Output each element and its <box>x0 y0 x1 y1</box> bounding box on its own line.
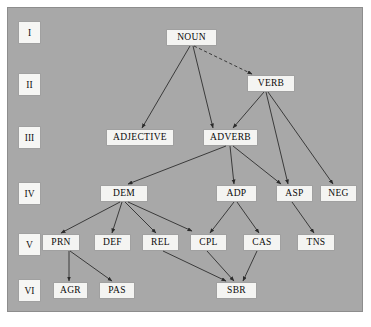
node-noun[interactable]: NOUN <box>167 30 216 45</box>
node-verb[interactable]: VERB <box>248 76 294 91</box>
node-tns[interactable]: TNS <box>298 235 334 250</box>
row-label-vi: VI <box>19 280 40 301</box>
node-pas[interactable]: PAS <box>100 283 134 298</box>
diagram-page: IIIIIIIVVVI NOUNVERBADJECTIVEADVERBDEMAD… <box>0 0 371 327</box>
row-label-v: V <box>19 234 40 255</box>
row-label-iv: IV <box>19 183 40 204</box>
node-prn[interactable]: PRN <box>43 235 79 250</box>
node-agr[interactable]: AGR <box>54 283 87 298</box>
node-def[interactable]: DEF <box>95 235 130 250</box>
row-label-ii: II <box>19 74 40 95</box>
node-sbr[interactable]: SBR <box>217 283 256 298</box>
node-asp[interactable]: ASP <box>277 186 312 201</box>
node-neg[interactable]: NEG <box>321 186 356 201</box>
node-cpl[interactable]: CPL <box>191 235 226 250</box>
node-adverb[interactable]: ADVERB <box>204 130 257 145</box>
diagram-panel <box>7 7 363 312</box>
node-adjective[interactable]: ADJECTIVE <box>107 130 173 145</box>
node-adp[interactable]: ADP <box>217 186 256 201</box>
row-label-i: I <box>19 22 40 43</box>
row-label-iii: III <box>19 127 40 148</box>
node-cas[interactable]: CAS <box>244 235 280 250</box>
node-dem[interactable]: DEM <box>101 186 147 201</box>
node-rel[interactable]: REL <box>143 235 178 250</box>
